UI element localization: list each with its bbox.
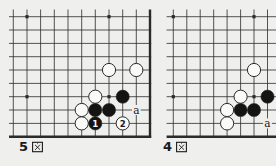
zu-kanji-icon bbox=[176, 141, 187, 153]
star-point bbox=[25, 95, 28, 98]
black-stone bbox=[234, 103, 247, 116]
star-point bbox=[252, 15, 255, 18]
zu-kanji-icon bbox=[32, 141, 43, 153]
star-point bbox=[25, 15, 28, 18]
black-stone bbox=[89, 103, 102, 116]
star-point bbox=[172, 95, 175, 98]
white-stone bbox=[102, 63, 115, 76]
black-stone bbox=[261, 90, 274, 103]
white-stone bbox=[130, 63, 143, 76]
black-stone bbox=[247, 103, 260, 116]
stone-number: 2 bbox=[120, 119, 126, 129]
white-stone bbox=[75, 117, 88, 130]
white-stone bbox=[221, 117, 234, 130]
star-point bbox=[107, 95, 110, 98]
white-stone bbox=[89, 90, 102, 103]
black-stone bbox=[102, 103, 115, 116]
black-stone bbox=[116, 90, 129, 103]
white-stone bbox=[247, 63, 260, 76]
board-fig4: a bbox=[167, 10, 276, 138]
figure-label-fig5: 5 bbox=[19, 140, 43, 153]
figure-number: 4 bbox=[163, 140, 173, 153]
star-point bbox=[252, 95, 255, 98]
figure-number: 5 bbox=[19, 140, 29, 153]
white-stone bbox=[75, 103, 88, 116]
point-label-a: a bbox=[264, 117, 270, 129]
board-fig5: a12 bbox=[9, 10, 151, 138]
stone-number: 1 bbox=[92, 119, 98, 129]
point-label-a: a bbox=[133, 104, 139, 116]
white-stone bbox=[221, 103, 234, 116]
star-point bbox=[107, 15, 110, 18]
star-point bbox=[172, 15, 175, 18]
figure-label-fig4: 4 bbox=[163, 140, 187, 153]
white-stone bbox=[234, 90, 247, 103]
